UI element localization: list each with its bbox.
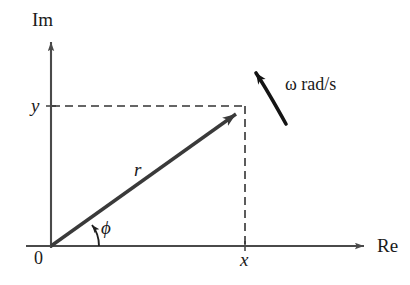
origin-label: 0 [34, 249, 43, 267]
real-component-label: x [240, 250, 248, 269]
rotation-arc [256, 73, 286, 124]
angle-arc [92, 225, 99, 246]
magnitude-label: r [134, 160, 141, 179]
phasor-vector [51, 114, 236, 246]
phasor-diagram: Im Re y x 0 r ϕ ω rad/s [0, 0, 410, 285]
angle-label: ϕ [101, 218, 111, 237]
angular-velocity-label: ω rad/s [285, 75, 336, 93]
phasor-diagram-canvas [0, 0, 410, 285]
imaginary-axis-label: Im [32, 10, 53, 29]
imaginary-component-label: y [31, 96, 39, 115]
real-axis-label: Re [377, 236, 398, 255]
